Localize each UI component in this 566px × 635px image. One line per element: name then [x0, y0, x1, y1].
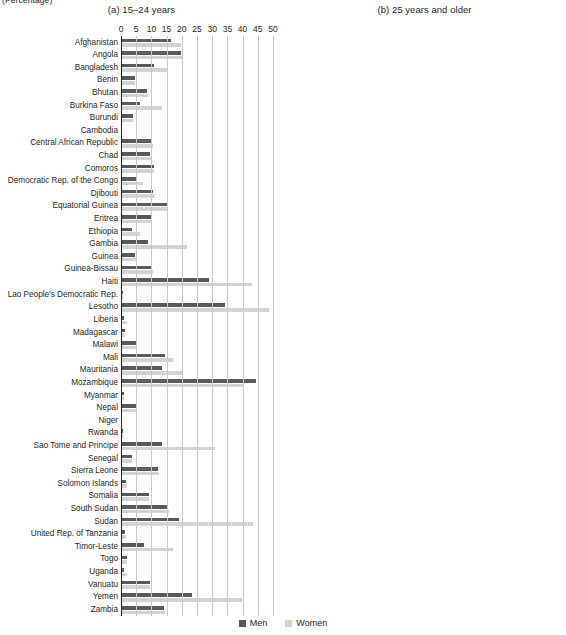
bar-women — [121, 472, 159, 476]
bar-men — [121, 165, 154, 169]
bar-women — [121, 548, 173, 552]
bar-men — [121, 455, 132, 459]
legend-swatch-men-icon — [239, 620, 246, 627]
bar-men — [121, 442, 162, 446]
x-tick-label: 40 — [238, 24, 247, 34]
legend-label-women: Women — [296, 618, 327, 628]
x-tick-label: 25 — [192, 24, 201, 34]
bar-women — [121, 169, 154, 173]
bar-men — [121, 253, 135, 257]
bar-women — [121, 81, 135, 85]
gridline — [151, 36, 152, 616]
bar-women — [121, 94, 148, 98]
panel-a-title: (a) 15–24 years — [0, 4, 283, 15]
x-tick-label: 35 — [223, 24, 232, 34]
bar-women — [121, 258, 136, 262]
x-tick-label: 15 — [162, 24, 171, 34]
bar-men — [121, 341, 136, 345]
gridline — [227, 36, 228, 616]
x-tick-label: 50 — [268, 24, 277, 34]
gridline — [258, 36, 259, 616]
bar-men — [121, 518, 179, 522]
bar-men — [121, 354, 165, 358]
x-tick-label: 20 — [177, 24, 186, 34]
bar-women — [121, 358, 173, 362]
bar-men — [121, 278, 209, 282]
legend-swatch-women-icon — [285, 620, 292, 627]
bar-women — [121, 207, 167, 211]
gridline — [212, 36, 213, 616]
bar-women — [121, 182, 143, 186]
bar-women — [121, 245, 187, 249]
legend-item-women: Women — [285, 618, 327, 628]
panel-a: (a) 15–24 years 05101520253035404550 Afg… — [0, 0, 283, 635]
bar-women — [121, 459, 132, 463]
bar-women — [121, 194, 154, 198]
bar-women — [121, 283, 252, 287]
x-tick-label: 30 — [207, 24, 216, 34]
bar-women — [121, 119, 133, 123]
bar-men — [121, 39, 171, 43]
legend-label-men: Men — [250, 618, 268, 628]
bar-women — [121, 497, 149, 501]
bar-men — [121, 240, 148, 244]
bar-women — [121, 346, 136, 350]
bar-women — [121, 106, 162, 110]
category-label: Zambia — [91, 603, 118, 617]
bar-women — [121, 232, 140, 236]
bar-women — [121, 510, 169, 514]
bar-men — [121, 366, 162, 370]
bar-men — [121, 505, 168, 509]
bar-women — [121, 308, 269, 312]
panel-b: (b) 25 years and older 05101520253035404… — [283, 0, 566, 635]
bar-men — [121, 467, 158, 471]
gridline — [136, 36, 137, 616]
bar-men — [121, 114, 133, 118]
gridline — [197, 36, 198, 616]
bar-men — [121, 228, 132, 232]
bar-women — [121, 409, 136, 413]
bar-men — [121, 543, 144, 547]
bar-women — [121, 611, 165, 615]
gridline — [273, 36, 274, 616]
x-tick-label: 0 — [119, 24, 124, 34]
chart-root: (Percentage) (a) 15–24 years 05101520253… — [0, 0, 566, 635]
bar-men — [121, 177, 137, 181]
bar-women — [121, 68, 167, 72]
chart-legend: Men Women — [0, 618, 566, 628]
axis-zero-line — [121, 36, 122, 616]
bar-men — [121, 379, 256, 383]
bar-men — [121, 203, 167, 207]
legend-item-men: Men — [239, 618, 268, 628]
bar-men — [121, 404, 136, 408]
bar-men — [121, 493, 149, 497]
gridline — [243, 36, 244, 616]
x-tick-label: 45 — [253, 24, 262, 34]
x-tick-label: 5 — [134, 24, 139, 34]
gridline — [167, 36, 168, 616]
bar-men — [121, 76, 135, 80]
gridline — [182, 36, 183, 616]
x-tick-label: 10 — [147, 24, 156, 34]
bar-men — [121, 606, 164, 610]
bar-men — [121, 64, 154, 68]
panel-a-plot: AfghanistanAngolaBangladeshBeninBhutanBu… — [121, 36, 273, 616]
bar-women — [121, 447, 215, 451]
bar-women — [121, 522, 253, 526]
panel-b-title: (b) 25 years and older — [283, 4, 566, 15]
panel-a-x-axis: 05101520253035404550 — [121, 24, 273, 36]
bar-men — [121, 89, 147, 93]
